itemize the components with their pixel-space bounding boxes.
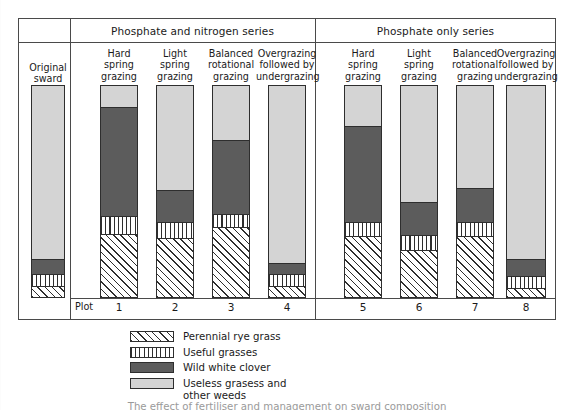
perennial-rye-grass-segment (457, 236, 493, 297)
bar-plot-5 (344, 85, 382, 298)
useless-grasses-segment (101, 86, 137, 107)
wild-white-clover-segment (213, 140, 249, 214)
header-divider (18, 42, 556, 43)
legend-item-3: Useless grasess and other weeds (130, 378, 286, 403)
useless-grasses-segment (32, 86, 64, 259)
legend-swatch-solid-light-grey (130, 378, 174, 389)
plot-number-3: 3 (202, 301, 260, 313)
plot-number-1: 1 (90, 301, 148, 313)
useless-grasses-segment (157, 86, 193, 190)
useless-grasses-segment (213, 86, 249, 140)
legend-label-0: Perennial rye grass (183, 331, 281, 343)
plot-number-8: 8 (496, 301, 556, 313)
perennial-rye-grass-segment (345, 236, 381, 297)
useless-grasses-segment (457, 86, 493, 188)
column-label-plot-1: Hardspringgrazing (88, 48, 150, 82)
wild-white-clover-segment (507, 259, 545, 277)
useful-grasses-segment (157, 222, 193, 238)
perennial-rye-grass-segment (401, 250, 437, 297)
bar-plot-2 (156, 85, 194, 298)
wild-white-clover-segment (32, 259, 64, 275)
column-label-original-sward: Originalsward (19, 62, 77, 85)
perennial-rye-grass-segment (269, 286, 305, 297)
plot-number-5: 5 (334, 301, 392, 313)
wild-white-clover-segment (401, 202, 437, 234)
perennial-rye-grass-segment (32, 286, 64, 297)
column-label-plot-8: Overgrazingfollowed byundergrazing (494, 48, 558, 82)
legend-label-1: Useful grasses (183, 347, 257, 359)
useful-grasses-segment (345, 222, 381, 235)
column-label-plot-4: Overgrazingfollowed byundergrazing (256, 48, 318, 82)
wild-white-clover-segment (457, 188, 493, 222)
wild-white-clover-segment (269, 263, 305, 274)
legend-swatch-vertical-stripes (130, 347, 174, 358)
legend-label-2: Wild white clover (183, 362, 270, 374)
bar-plot-6 (400, 85, 438, 298)
plot-number-4: 4 (258, 301, 316, 313)
useful-grasses-segment (401, 235, 437, 251)
useful-grasses-segment (507, 276, 545, 287)
perennial-rye-grass-segment (157, 238, 193, 297)
bar-plot-4 (268, 85, 306, 298)
useless-grasses-segment (269, 86, 305, 263)
useful-grasses-segment (101, 216, 137, 234)
column-label-plot-5: Hardspringgrazing (332, 48, 394, 82)
series-title-phosphate-nitrogen: Phosphate and nitrogen series (70, 22, 315, 40)
bar-plot-8 (506, 85, 546, 298)
wild-white-clover-segment (157, 190, 193, 222)
useful-grasses-segment (32, 274, 64, 285)
legend: Perennial rye grassUseful grassesWild wh… (130, 331, 286, 405)
plot-number-2: 2 (146, 301, 204, 313)
bar-plot-1 (100, 85, 138, 298)
plot-number-6: 6 (390, 301, 448, 313)
useful-grasses-segment (269, 274, 305, 285)
bar-plot-3 (212, 85, 250, 298)
legend-swatch-solid-dark-grey (130, 362, 174, 373)
series-title-phosphate-only: Phosphate only series (315, 22, 556, 40)
legend-item-2: Wild white clover (130, 362, 286, 375)
column-label-plot-2: Lightspringgrazing (144, 48, 206, 82)
useless-grasses-segment (507, 86, 545, 259)
figure-caption: The effect of fertiliser and management … (0, 401, 574, 410)
column-label-plot-6: Lightspringgrazing (388, 48, 450, 82)
legend-item-0: Perennial rye grass (130, 331, 286, 344)
useful-grasses-segment (457, 222, 493, 235)
bar-original-sward (31, 85, 65, 298)
legend-label-3: Useless grasess and other weeds (183, 378, 286, 402)
perennial-rye-grass-segment (507, 288, 545, 297)
legend-item-1: Useful grasses (130, 347, 286, 360)
plot-row-divider (70, 298, 556, 299)
useless-grasses-segment (401, 86, 437, 202)
wild-white-clover-segment (101, 107, 137, 216)
legend-swatch-diagonal-hatch (130, 331, 174, 342)
wild-white-clover-segment (345, 126, 381, 223)
perennial-rye-grass-segment (213, 227, 249, 297)
useless-grasses-segment (345, 86, 381, 126)
perennial-rye-grass-segment (101, 234, 137, 297)
bar-plot-7 (456, 85, 494, 298)
column-label-plot-3: Balancedrotationalgrazing (200, 48, 262, 82)
useful-grasses-segment (213, 214, 249, 227)
